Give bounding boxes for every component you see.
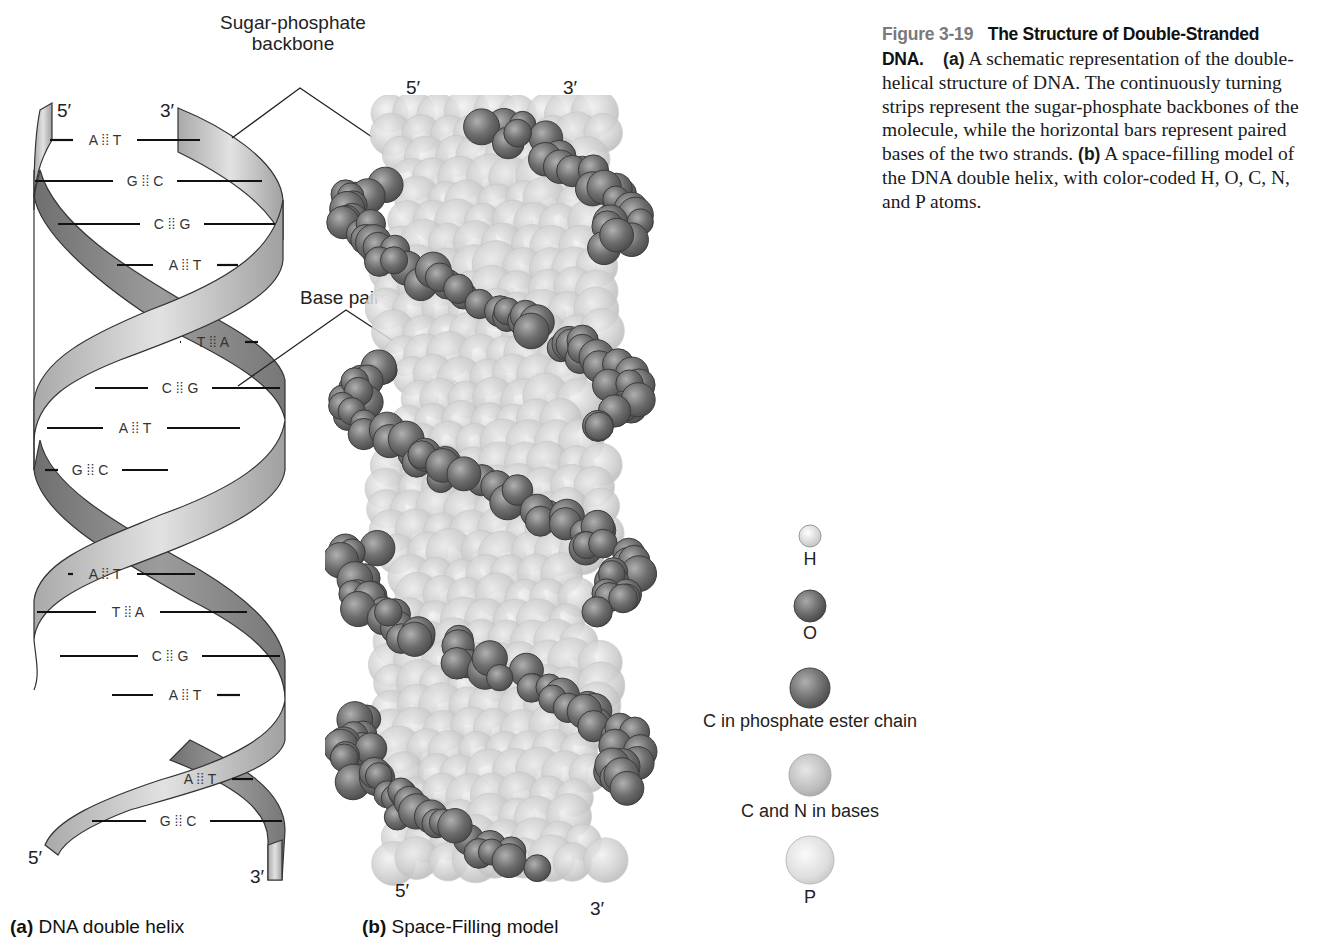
svg-text:A ⁞⁞ T: A ⁞⁞ T	[89, 566, 122, 582]
svg-text:G ⁞⁞ C: G ⁞⁞ C	[72, 462, 109, 478]
panel-b-tag: (b)	[362, 916, 386, 937]
hydrogen-atom-icon	[798, 524, 822, 548]
panel-a-title: DNA double helix	[39, 916, 185, 937]
panel-a-tag: (a)	[10, 916, 33, 937]
panel-a-label: (a) DNA double helix	[10, 916, 184, 938]
svg-text:G ⁞⁞ C: G ⁞⁞ C	[160, 813, 197, 829]
legend-label-c-backbone: C in phosphate ester chain	[680, 711, 940, 732]
carbon-backbone-atom-icon	[788, 666, 832, 710]
panel-b-label: (b) Space-Filling model	[362, 916, 558, 938]
base-pair-11: C ⁞⁞ G	[60, 648, 280, 664]
svg-text:A ⁞⁞ T: A ⁞⁞ T	[119, 420, 152, 436]
model-top-3prime: 3′	[563, 77, 577, 99]
helix-top-left-5prime: 5′	[57, 100, 71, 122]
svg-text:C ⁞⁞ G: C ⁞⁞ G	[152, 648, 189, 664]
svg-text:A ⁞⁞ T: A ⁞⁞ T	[169, 257, 202, 273]
legend-label-h: H	[680, 549, 940, 570]
base-pair-3: C ⁞⁞ G	[58, 216, 275, 232]
svg-text:C ⁞⁞ G: C ⁞⁞ G	[154, 216, 191, 232]
callout-backbone-line2: backbone	[208, 33, 378, 54]
base-pair-6: C ⁞⁞ G	[95, 380, 280, 396]
svg-text:A ⁞⁞ T: A ⁞⁞ T	[89, 132, 122, 148]
legend-label-o: O	[680, 623, 940, 644]
legend-item-c-n-bases: C and N in bases	[680, 752, 940, 822]
svg-text:A ⁞⁞ T: A ⁞⁞ T	[184, 771, 217, 787]
base-pair-12: A ⁞⁞ T	[112, 687, 240, 703]
figure-number: Figure 3-19	[882, 24, 973, 44]
legend-item-h: H	[680, 524, 940, 570]
callout-backbone-line1: Sugar-phosphate	[208, 12, 378, 33]
base-pair-8: G ⁞⁞ C	[45, 462, 168, 478]
figure-caption: Figure 3-19 The Structure of Double-Stra…	[882, 22, 1314, 213]
svg-text:T ⁞⁞ A: T ⁞⁞ A	[112, 604, 145, 620]
callout-backbone-label: Sugar-phosphate backbone	[208, 12, 378, 54]
svg-text:C ⁞⁞ G: C ⁞⁞ G	[162, 380, 199, 396]
model-top-5prime: 5′	[406, 77, 420, 99]
legend-item-o: O	[680, 588, 940, 644]
model-bottom-5prime: 5′	[395, 880, 409, 902]
base-pair-4: A ⁞⁞ T	[117, 257, 238, 273]
legend-item-c-backbone: C in phosphate ester chain	[680, 666, 940, 732]
helix-bottom-right-3prime: 3′	[250, 866, 264, 888]
space-filling-model	[325, 95, 675, 895]
svg-text:G ⁞⁞ C: G ⁞⁞ C	[127, 173, 164, 189]
carbon-nitrogen-base-atom-icon	[787, 752, 833, 798]
helix-top-right-3prime: 3′	[160, 100, 174, 122]
svg-text:T ⁞⁞ A: T ⁞⁞ A	[197, 334, 230, 350]
base-pair-7: A ⁞⁞ T	[47, 420, 240, 436]
svg-text:A ⁞⁞ T: A ⁞⁞ T	[169, 687, 202, 703]
caption-part-b-tag: (b)	[1078, 144, 1100, 164]
model-bottom-3prime: 3′	[590, 898, 604, 920]
base-pair-14: G ⁞⁞ C	[92, 813, 282, 829]
phosphorus-atom-icon	[784, 834, 836, 886]
panel-b-title: Space-Filling model	[392, 916, 559, 937]
helix-bottom-left-5prime: 5′	[28, 847, 42, 869]
legend-item-p: P	[680, 834, 940, 908]
legend-label-p: P	[680, 887, 940, 908]
dna-double-helix-diagram: A ⁞⁞ TG ⁞⁞ CC ⁞⁞ GA ⁞⁞ TT ⁞⁞ AC ⁞⁞ GA ⁞⁞…	[0, 0, 330, 900]
caption-part-a-tag: (a)	[943, 49, 964, 69]
legend-label-c-n-bases: C and N in bases	[680, 801, 940, 822]
oxygen-atom-icon	[792, 588, 828, 624]
